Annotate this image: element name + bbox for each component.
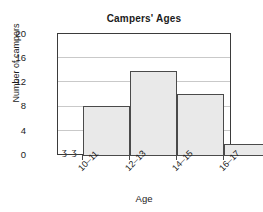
- y-tick-label-8: 8: [0, 101, 26, 111]
- y-tick-label-4: 4: [0, 126, 26, 136]
- chart-title: Campers' Ages: [57, 13, 231, 24]
- gridline-16: [58, 57, 230, 58]
- bar-10-11: [83, 106, 130, 156]
- x-axis-title: Age: [57, 193, 231, 204]
- chart-container: Campers' Ages Number of campers 20 16 12…: [0, 0, 263, 212]
- y-tick-label-16: 16: [0, 53, 26, 63]
- y-tick-label-12: 12: [0, 77, 26, 87]
- bar-12-13: [130, 71, 177, 156]
- y-tick-label-20: 20: [0, 29, 26, 39]
- plot-area: [57, 33, 231, 155]
- axis-break-icon: ʒ ʒ: [62, 146, 78, 157]
- y-tick-label-0: 0: [0, 150, 26, 160]
- bar-14-15: [177, 94, 224, 156]
